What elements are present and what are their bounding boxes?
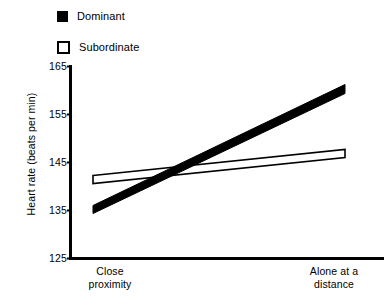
chart-figure: Dominant Subordinate Heart rate (beats p… bbox=[0, 0, 384, 306]
plot-area bbox=[0, 0, 384, 306]
series-line-dominant bbox=[93, 85, 345, 214]
series-line-subordinate bbox=[93, 150, 345, 184]
